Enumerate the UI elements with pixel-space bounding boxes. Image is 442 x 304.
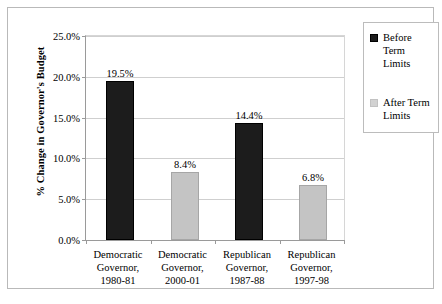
- y-tick-mark-5: [82, 199, 86, 200]
- y-tick-mark-15: [82, 118, 86, 119]
- y-tick-label-20: 20.0%: [53, 71, 80, 82]
- y-tick-mark-10: [82, 158, 86, 159]
- bar-value-label: 6.8%: [302, 172, 324, 183]
- x-category-line: 1997-98: [274, 274, 350, 287]
- bar-republican-1987-88[interactable]: 14.4%: [235, 123, 263, 241]
- bar-value-label: 8.4%: [174, 159, 196, 170]
- x-tick-mark-3: [280, 240, 281, 244]
- legend-entry-after-term-limits[interactable]: After Term Limits: [370, 96, 434, 122]
- chart-figure: % Change in Governor's Budget 25.0% 20.0…: [0, 0, 442, 304]
- x-tick-mark-2: [215, 240, 216, 244]
- legend-label-line: Before Term: [383, 32, 412, 56]
- y-tick-label-5: 5.0%: [58, 194, 80, 205]
- bar-democratic-1980-81[interactable]: 19.5%: [106, 81, 134, 240]
- y-tick-label-25: 25.0%: [53, 31, 80, 42]
- y-tick-label-0: 0.0%: [58, 235, 80, 246]
- figure-frame: % Change in Governor's Budget 25.0% 20.0…: [7, 7, 434, 289]
- bar-value-label: 19.5%: [106, 68, 133, 79]
- bar-value-label: 14.4%: [235, 110, 262, 121]
- legend-entry-before-term-limits[interactable]: Before Term Limits: [370, 31, 434, 70]
- y-tick-mark-25: [82, 36, 86, 37]
- legend-label-line: Limits: [383, 110, 410, 121]
- legend-swatch-icon: [370, 34, 378, 42]
- bar-democratic-2000-01[interactable]: 8.4%: [171, 172, 199, 241]
- x-tick-mark-1: [151, 240, 152, 244]
- plot-area: 25.0% 20.0% 15.0% 10.0% 5.0% 0.0%: [85, 35, 345, 241]
- y-axis-title: % Change in Governor's Budget: [35, 22, 46, 222]
- x-category-line: Republican: [274, 248, 350, 261]
- legend-label: After Term Limits: [383, 96, 430, 122]
- x-category-republican-1997-98: Republican Governor, 1997-98: [274, 248, 350, 287]
- y-tick-mark-20: [82, 77, 86, 78]
- legend-swatch-icon: [370, 99, 378, 107]
- gridline-25: 25.0%: [86, 36, 344, 37]
- legend-label-line: Limits: [383, 58, 410, 69]
- x-tick-mark-0: [86, 240, 87, 244]
- bar-republican-1997-98[interactable]: 6.8%: [299, 185, 327, 241]
- legend-label: Before Term Limits: [383, 31, 434, 70]
- x-category-line: Governor,: [274, 261, 350, 274]
- y-tick-label-10: 10.0%: [53, 153, 80, 164]
- chart-legend: Before Term Limits After Term Limits: [363, 22, 439, 133]
- legend-label-line: After Term: [383, 97, 430, 108]
- y-tick-label-15: 15.0%: [53, 112, 80, 123]
- x-tick-mark-4: [344, 240, 345, 244]
